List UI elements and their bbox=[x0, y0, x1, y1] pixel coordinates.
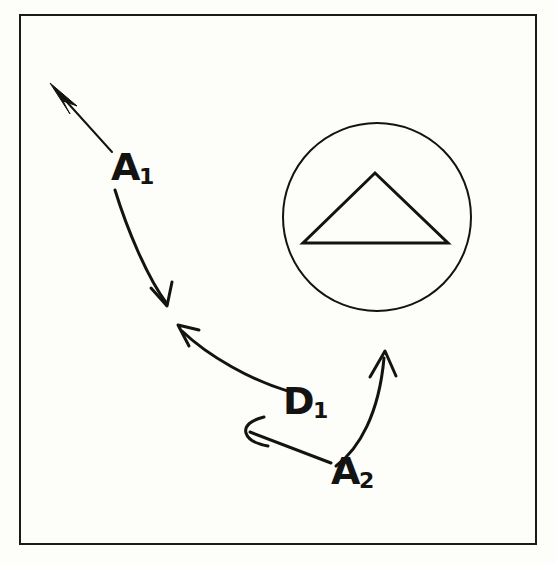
diagram-vector-layer bbox=[0, 0, 556, 564]
label-a2: A2 bbox=[331, 452, 374, 492]
label-a1-subscript: 1 bbox=[139, 164, 154, 189]
arrow-a1-lower bbox=[115, 190, 172, 306]
label-a1: A1 bbox=[111, 148, 154, 188]
label-d1: D1 bbox=[283, 382, 328, 422]
figure-canvas: A1 D1 A2 bbox=[0, 0, 556, 564]
label-a2-subscript: 2 bbox=[359, 468, 374, 493]
arrow-a2-to-left bbox=[246, 417, 331, 463]
label-a1-base: A bbox=[111, 145, 140, 189]
label-d1-base: D bbox=[283, 379, 314, 423]
label-a2-base: A bbox=[331, 449, 360, 493]
arrow-a1-upper bbox=[50, 83, 112, 152]
label-d1-subscript: 1 bbox=[313, 398, 328, 423]
arrow-d1-to-upper-left bbox=[178, 325, 291, 392]
triangle-outline bbox=[303, 173, 448, 243]
circle-outline bbox=[283, 123, 471, 311]
